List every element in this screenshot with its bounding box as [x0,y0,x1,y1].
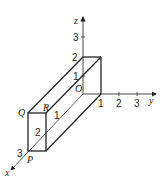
z-tick-2: 2 [72,52,78,63]
z-axis-label: z [73,15,78,26]
y-tick-2: 2 [116,98,122,109]
z-tick-3: 3 [73,32,79,43]
y-tick-3: 3 [134,98,140,109]
x-axis-label: x [4,167,10,178]
point-r-label: R [42,102,49,113]
y-axis-label: y [148,95,154,106]
point-p-label: P [26,154,33,165]
point-q-label: Q [18,107,26,118]
origin-label: O [75,83,82,94]
x-tick-3: 3 [17,148,23,159]
y-axis [83,92,156,96]
z-tick-1: 1 [73,71,79,82]
x-tick-2: 2 [35,127,41,138]
y-tick-1: 1 [98,98,104,109]
x-tick-1: 1 [54,110,60,121]
coordinate-diagram: 3 2 1 1 2 3 1 2 3 z y x O Q R P [0,0,162,182]
